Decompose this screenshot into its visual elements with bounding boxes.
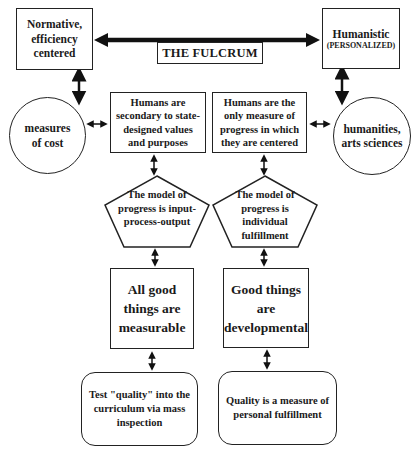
- quality-personal-fulfillment-box: Quality is a measure of personal fulfill…: [218, 371, 337, 445]
- all-good-things-label: All good things are measurable: [115, 280, 189, 337]
- good-things-label: Good things are developmental: [224, 280, 308, 337]
- fulcrum-label-box: THE FULCRUM: [157, 42, 263, 64]
- test-quality-box: Test "quality" into the curriculum via m…: [81, 372, 198, 446]
- humans-secondary-box: Humans are secondary to state-designed v…: [110, 92, 206, 153]
- individual-fulfillment-text: The model of progress is individual fulf…: [236, 189, 295, 241]
- humans-only-measure-box: Humans are the only measure of progress …: [212, 92, 307, 153]
- humans-only-measure-label: Humans are the only measure of progress …: [216, 96, 303, 150]
- humanities-label: humanities, arts sciences: [340, 122, 404, 151]
- right-pentagon-label: The model of progress is individual fulf…: [226, 188, 304, 242]
- humanistic-subtitle: (PERSONALIZED): [327, 41, 395, 51]
- normative-efficiency-label: Normative, efficiency centered: [17, 17, 92, 61]
- all-good-things-measurable-box: All good things are measurable: [110, 268, 194, 349]
- fulcrum-label: THE FULCRUM: [162, 46, 258, 61]
- humanistic-title: Humanistic: [333, 27, 390, 41]
- normative-efficiency-box: Normative, efficiency centered: [16, 8, 93, 70]
- test-quality-label: Test "quality" into the curriculum via m…: [88, 388, 191, 430]
- measures-of-cost-circle: measures of cost: [9, 97, 86, 174]
- humanities-arts-sciences-circle: humanities, arts sciences: [333, 97, 411, 175]
- quality-fulfillment-label: Quality is a measure of personal fulfill…: [225, 394, 330, 422]
- left-pentagon-label: The model of progress is input-process-o…: [116, 188, 198, 229]
- input-process-output-text: The model of progress is input-process-o…: [118, 189, 196, 227]
- good-things-developmental-box: Good things are developmental: [223, 268, 309, 348]
- humanistic-box: Humanistic (PERSONALIZED): [322, 8, 400, 69]
- measures-of-cost-label: measures of cost: [20, 121, 75, 150]
- humans-secondary-label: Humans are secondary to state-designed v…: [115, 96, 201, 150]
